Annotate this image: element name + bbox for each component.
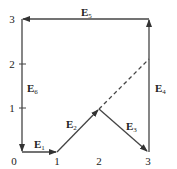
dashed-extension-line	[99, 59, 149, 109]
label-e1: E1	[34, 138, 45, 152]
y-tick-label-3: 3	[9, 13, 15, 25]
label-e5: E5	[81, 6, 92, 20]
y-tick-label-1: 1	[9, 102, 15, 114]
label-e2: E2	[66, 118, 77, 132]
x-tick-label-1: 1	[54, 155, 60, 167]
y-tick-label-2: 2	[9, 58, 15, 70]
label-e4: E4	[155, 82, 166, 96]
vector-diagram: 0 1 2 3 1 2 3 E1 E2 E3 E4 E5 E6	[0, 0, 177, 169]
vector-e3	[99, 109, 147, 151]
vector-e2	[57, 110, 98, 152]
x-tick-label-0: 0	[11, 155, 17, 167]
label-e6: E6	[27, 82, 38, 96]
x-tick-label-2: 2	[96, 155, 102, 167]
x-tick-label-3: 3	[145, 155, 151, 167]
label-e3: E3	[126, 120, 137, 134]
